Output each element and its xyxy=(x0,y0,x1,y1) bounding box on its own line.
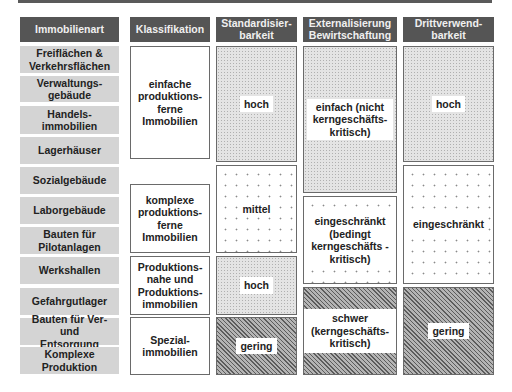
cell-label: Komplexe Produktion xyxy=(38,348,102,373)
cell-label: eingeschränkt xyxy=(409,216,488,233)
cell-label: Bauten für Ver- und Entsorgung xyxy=(30,313,110,351)
externalisierung-einfach: einfach (nicht kerngeschäfts-kritisch) xyxy=(303,46,397,193)
header-externalisierung: Externalisierung Bewirtschaftung xyxy=(303,17,397,42)
immobilienart-verwaltung: Verwaltungs-gebäude xyxy=(20,76,119,102)
cell-label: Bauten für Pilotanlagen xyxy=(35,228,105,253)
cell-label: Produktions-nahe und Produktions-immobil… xyxy=(136,261,204,311)
externalisierung-schwer: schwer (kerngeschäfts-kritisch) xyxy=(303,287,397,375)
cell-label: Sozialgebäude xyxy=(33,174,107,187)
cell-label: Spezial-immobilien xyxy=(136,334,204,359)
klassifikation-spezial: Spezial-immobilien xyxy=(130,317,210,375)
header-drittverwendbarkeit: Drittverwend- barkeit xyxy=(403,17,494,42)
standardisierbarkeit-hoch-2: hoch xyxy=(216,256,297,315)
cell-label: gering xyxy=(428,323,468,340)
top-rule xyxy=(18,0,492,3)
immobilienart-freiflaechen: Freiflächen & Verkehrsflächen xyxy=(20,46,119,73)
cell-label: Gefahrgutlager xyxy=(32,295,107,308)
cell-label: schwer (kerngeschäfts-kritisch) xyxy=(304,309,396,353)
cell-label: Laborgebäude xyxy=(33,204,105,217)
header-label: Immobilienart xyxy=(35,24,104,36)
klassifikation-komplex: komplexe produktions-ferne Immobilien xyxy=(130,184,210,253)
immobilienart-ver-entsorgung: Bauten für Ver- und Entsorgung xyxy=(20,318,119,345)
immobilienart-werkshallen: Werkshallen xyxy=(20,257,119,284)
header-immobilienart: Immobilienart xyxy=(20,17,119,42)
standardisierbarkeit-gering: gering xyxy=(216,317,297,375)
cell-label: gering xyxy=(236,338,276,355)
cell-label: Handels-immobilien xyxy=(38,108,102,133)
cell-label: hoch xyxy=(432,96,465,113)
klassifikation-produktionsnah: Produktions-nahe und Produktions-immobil… xyxy=(130,256,210,315)
standardisierbarkeit-hoch-1: hoch xyxy=(216,46,297,162)
header-standardisierbarkeit: Standardisier- barkeit xyxy=(216,17,297,42)
drittverwendbarkeit-gering: gering xyxy=(403,287,494,375)
standardisierbarkeit-mittel: mittel xyxy=(216,165,297,253)
immobilienart-lager: Lagerhäuser xyxy=(20,137,119,164)
immobilienart-handel: Handels-immobilien xyxy=(20,106,119,134)
cell-label: komplexe produktions-ferne Immobilien xyxy=(136,194,204,244)
header-label: Externalisierung Bewirtschaftung xyxy=(309,18,391,41)
immobilienart-pilot: Bauten für Pilotanlagen xyxy=(20,227,119,254)
header-label: Klassifikation xyxy=(136,24,204,36)
cell-label: eingeschränkt (bedingt kerngeschäfts -kr… xyxy=(306,213,394,267)
cell-label: hoch xyxy=(240,96,273,113)
cell-label: Freiflächen & Verkehrsflächen xyxy=(25,47,115,72)
drittverwendbarkeit-hoch: hoch xyxy=(403,46,494,162)
cell-label: einfach (nicht kerngeschäfts-kritisch) xyxy=(307,99,393,141)
cell-label: hoch xyxy=(240,277,273,294)
immobilienart-sozial: Sozialgebäude xyxy=(20,167,119,194)
cell-label: mittel xyxy=(238,201,274,218)
immobilienart-labor: Laborgebäude xyxy=(20,197,119,224)
header-label: Drittverwend- barkeit xyxy=(415,18,483,41)
externalisierung-eingeschraenkt: eingeschränkt (bedingt kerngeschäfts -kr… xyxy=(303,196,397,284)
immobilienart-gefahrgut: Gefahrgutlager xyxy=(20,288,119,315)
cell-label: einfache produktions-ferne Immobilien xyxy=(136,78,204,128)
drittverwendbarkeit-eingeschraenkt: eingeschränkt xyxy=(403,165,494,284)
klassifikation-einfach: einfache produktions-ferne Immobilien xyxy=(130,46,210,159)
header-label: Standardisier- barkeit xyxy=(221,18,292,41)
immobilienart-komplexe-produktion: Komplexe Produktion xyxy=(20,347,119,374)
cell-label: Werkshallen xyxy=(39,264,101,277)
cell-label: Verwaltungs-gebäude xyxy=(34,77,106,102)
cell-label: Lagerhäuser xyxy=(38,144,101,157)
header-klassifikation: Klassifikation xyxy=(130,17,210,42)
